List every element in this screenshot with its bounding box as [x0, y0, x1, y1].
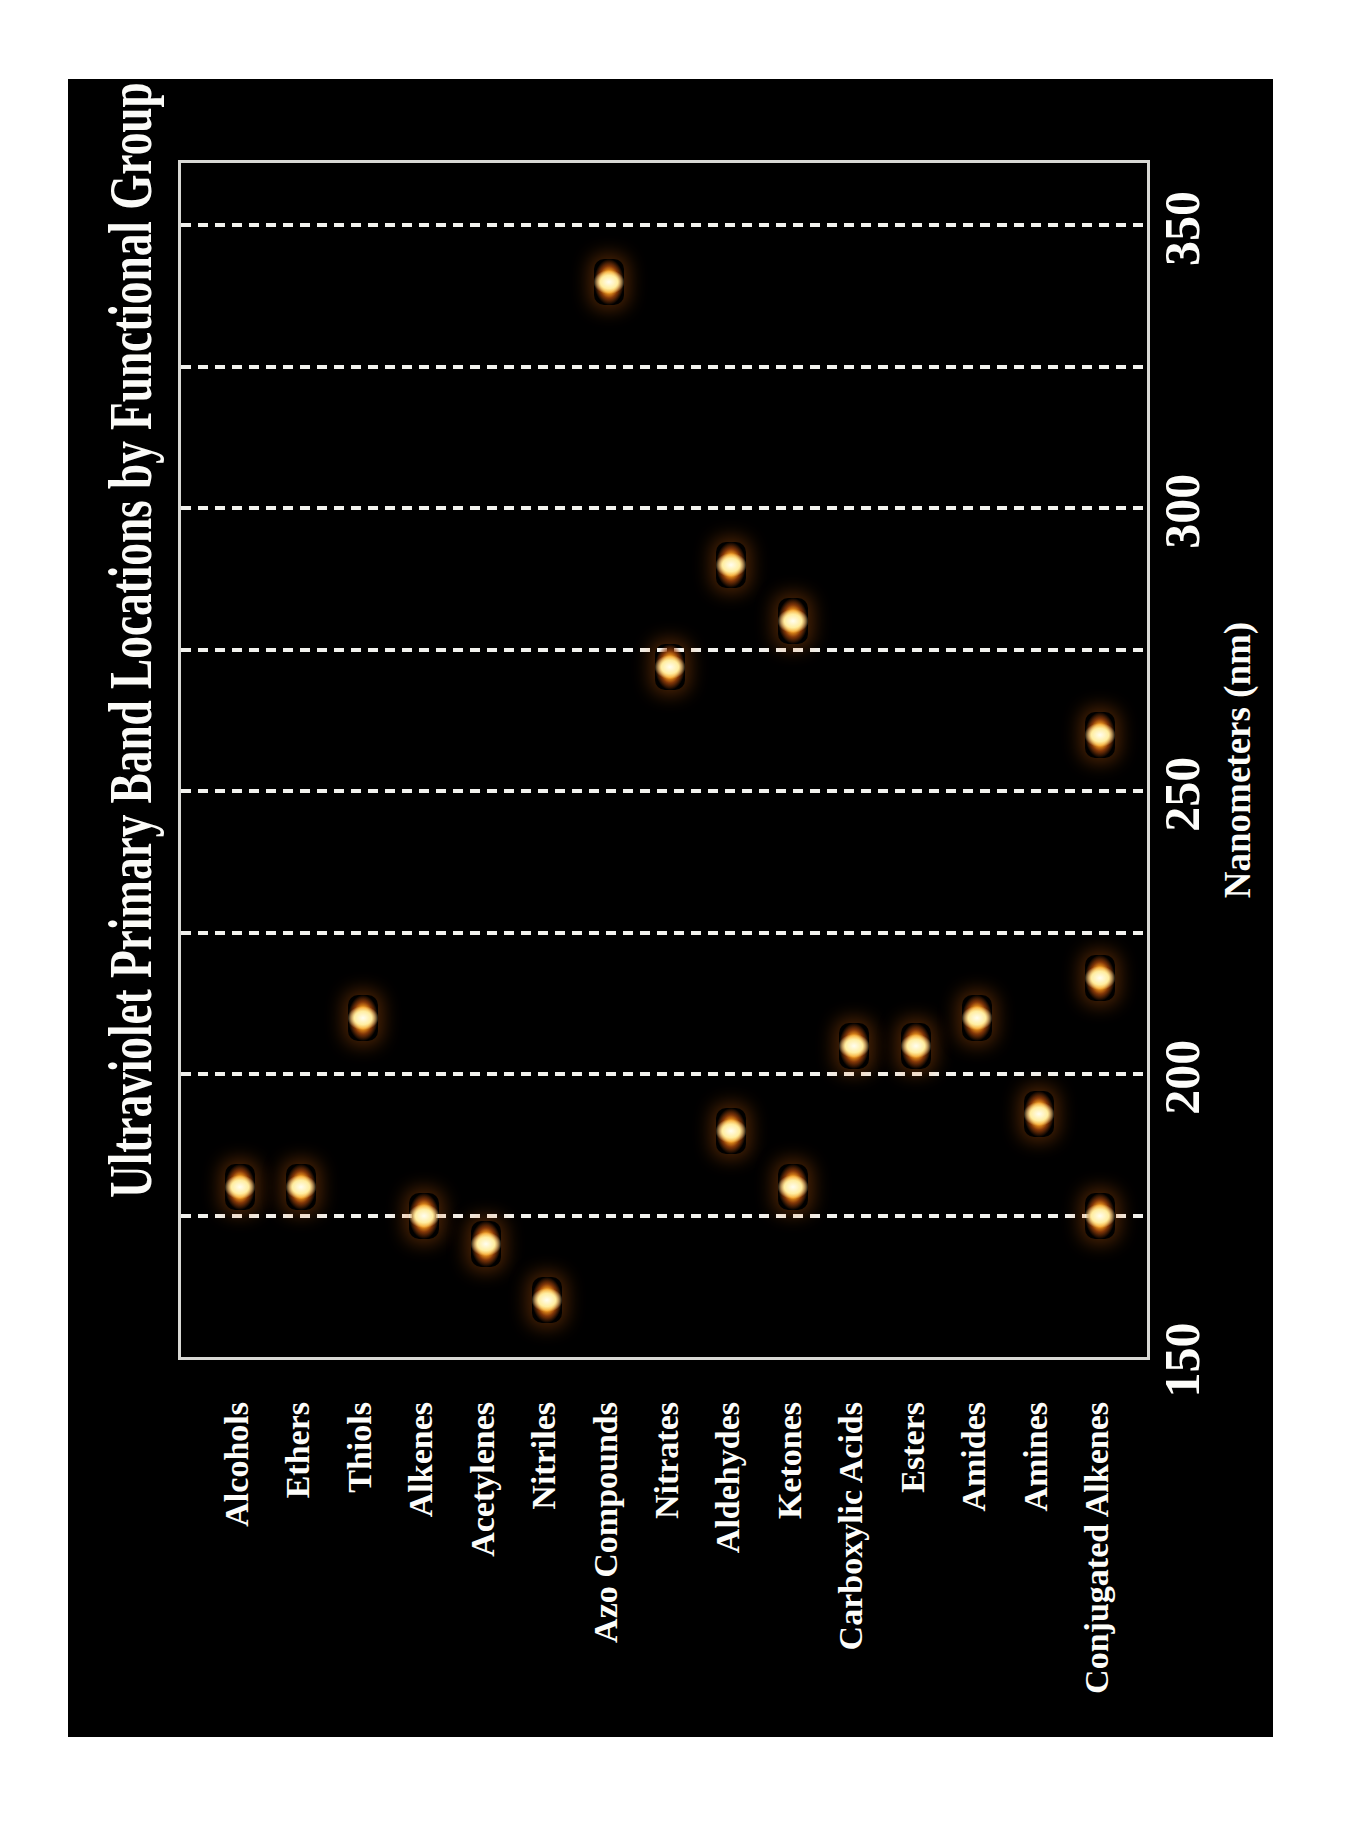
- gridline-325nm: [181, 365, 1147, 369]
- category-label: Carboxylic Acids: [830, 1402, 872, 1737]
- band-marker: [225, 1164, 255, 1210]
- category-label: Alkenes: [400, 1402, 442, 1737]
- band-marker: [962, 995, 992, 1041]
- band-marker: [1085, 1193, 1115, 1239]
- x-tick-label: 150: [1156, 1290, 1209, 1430]
- chart-canvas: Ultraviolet Primary Band Locations by Fu…: [68, 79, 1273, 1737]
- gridline-300nm: [181, 506, 1147, 510]
- scanned-page: { "chart_data": { "type": "scatter", "ti…: [0, 0, 1352, 1833]
- x-tick-label: 200: [1156, 1007, 1209, 1147]
- band-marker: [1085, 712, 1115, 758]
- category-label: Alcohols: [216, 1402, 258, 1737]
- band-marker: [594, 259, 624, 305]
- band-marker: [778, 599, 808, 645]
- band-marker: [901, 1023, 931, 1069]
- gridline-250nm: [181, 789, 1147, 793]
- chart-title: Ultraviolet Primary Band Locations by Fu…: [88, 322, 172, 1198]
- category-label: Ethers: [277, 1402, 319, 1737]
- band-marker: [348, 995, 378, 1041]
- band-marker: [532, 1277, 562, 1323]
- category-label: Ketones: [769, 1402, 811, 1737]
- category-label: Esters: [892, 1402, 934, 1737]
- black-chart-sheet: Ultraviolet Primary Band Locations by Fu…: [68, 79, 1273, 1737]
- band-marker: [655, 644, 685, 690]
- category-label: Nitriles: [523, 1402, 565, 1737]
- band-marker: [716, 1108, 746, 1154]
- category-label: Thiols: [339, 1402, 381, 1737]
- x-tick-label: 350: [1156, 158, 1209, 298]
- gridline-175nm: [181, 1214, 1147, 1218]
- category-label: Nitrates: [646, 1402, 688, 1737]
- x-tick-label: 300: [1156, 441, 1209, 581]
- band-marker: [716, 542, 746, 588]
- category-label: Acetylenes: [462, 1402, 504, 1737]
- category-label: Aldehydes: [707, 1402, 749, 1737]
- band-marker: [409, 1193, 439, 1239]
- band-marker: [839, 1023, 869, 1069]
- gridline-350nm: [181, 223, 1147, 227]
- x-tick-label: 250: [1156, 724, 1209, 864]
- x-axis-label: Nanometers (nm): [1216, 160, 1259, 1360]
- category-label: Conjugated Alkenes: [1076, 1402, 1118, 1737]
- band-marker: [471, 1221, 501, 1267]
- band-marker: [778, 1164, 808, 1210]
- plot-area: [178, 160, 1150, 1360]
- category-label: Amides: [953, 1402, 995, 1737]
- gridline-225nm: [181, 931, 1147, 935]
- category-label: Azo Compounds: [585, 1402, 627, 1737]
- category-label: Amines: [1015, 1402, 1057, 1737]
- band-marker: [286, 1164, 316, 1210]
- band-marker: [1024, 1091, 1054, 1137]
- gridline-200nm: [181, 1072, 1147, 1076]
- band-marker: [1085, 955, 1115, 1001]
